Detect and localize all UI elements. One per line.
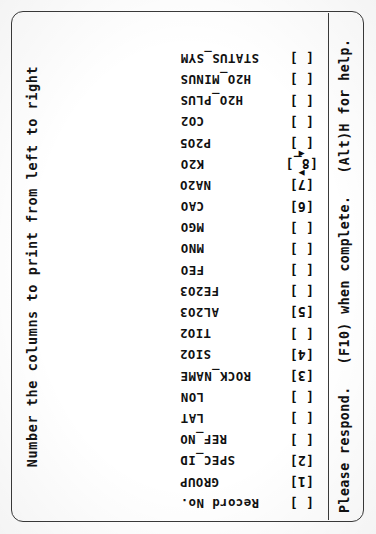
column-order-row[interactable]: FEO[ ]	[180, 259, 319, 280]
status-help-hint: (Alt)H for help.	[337, 39, 352, 174]
column-label: REF_NO	[180, 433, 284, 446]
column-order-row[interactable]: H2O_PLUS[ ]	[180, 89, 319, 110]
column-order-input[interactable]: [ ]	[285, 284, 319, 297]
column-order-input[interactable]: [ ]	[285, 496, 319, 509]
column-order-row[interactable]: CO2[ ]	[180, 110, 319, 131]
column-order-input[interactable]: [ ]	[285, 241, 319, 254]
column-order-row[interactable]: LON[ ]	[180, 386, 319, 407]
column-label: H2O_PLUS	[180, 94, 284, 107]
column-label: Record No.	[180, 496, 284, 509]
column-label: TIO2	[180, 327, 284, 340]
column-order-input[interactable]: [8_]▲▼	[285, 157, 319, 170]
column-order-row[interactable]: CAO[6]	[180, 195, 319, 216]
column-order-input[interactable]: [ ]	[285, 93, 319, 106]
column-label: K2O	[180, 157, 284, 170]
column-order-input[interactable]: [ ]	[285, 51, 319, 64]
column-order-row[interactable]: H2O_MINUS[ ]	[180, 68, 319, 89]
column-order-input[interactable]: [4]	[285, 347, 319, 360]
column-order-input[interactable]: [2]	[285, 453, 319, 466]
column-label: FEO	[180, 263, 284, 276]
column-order-row[interactable]: MGO[ ]	[180, 216, 319, 237]
column-order-input[interactable]: [3]	[285, 369, 319, 382]
column-label: AL2O3	[180, 305, 284, 318]
column-label: GROUP	[180, 475, 284, 488]
status-complete-hint: (F10) when complete.	[337, 196, 352, 365]
page-title: Number the columns to print from left to…	[24, 12, 40, 521]
column-order-input[interactable]: [ ]	[285, 390, 319, 403]
column-label: CO2	[180, 115, 284, 128]
status-bar: Please respond. (F10) when complete. (Al…	[333, 20, 355, 513]
column-order-row[interactable]: SPEC_ID[2]	[180, 449, 319, 470]
column-label: SPEC_ID	[180, 454, 284, 467]
column-order-input[interactable]: [6]	[285, 199, 319, 212]
column-order-input[interactable]: [7]	[285, 178, 319, 191]
column-order-row[interactable]: NA2O[7]	[180, 174, 319, 195]
column-order-input[interactable]: [ ]	[285, 72, 319, 85]
column-order-input[interactable]: [ ]	[285, 220, 319, 233]
column-label: MNO	[180, 242, 284, 255]
column-order-input[interactable]: [ ]	[285, 411, 319, 424]
column-order-input[interactable]: [ ]	[285, 136, 319, 149]
column-label: P2O5	[180, 136, 284, 149]
status-divider	[328, 13, 329, 520]
column-order-row[interactable]: LAT[ ]	[180, 407, 319, 428]
cursor-up-icon: ▲	[297, 151, 307, 157]
column-label: LON	[180, 390, 284, 403]
field-list: Record No.[ ]GROUP[1]SPEC_ID[2]REF_NO[ ]…	[180, 18, 319, 515]
column-order-input[interactable]: [1]	[285, 475, 319, 488]
column-label: H2O_MINUS	[180, 72, 284, 85]
cursor-down-icon: ▼	[297, 170, 307, 176]
column-label: CAO	[180, 199, 284, 212]
column-order-row[interactable]: REF_NO[ ]	[180, 428, 319, 449]
column-order-row[interactable]: K2O[8_]▲▼	[180, 153, 319, 174]
column-order-row[interactable]: MNO[ ]	[180, 238, 319, 259]
column-label: FE2O3	[180, 284, 284, 297]
column-label: SIO2	[180, 348, 284, 361]
status-prompt: Please respond.	[337, 386, 352, 513]
rotated-page: Number the columns to print from left to…	[0, 0, 376, 534]
column-order-row[interactable]: SIO2[4]	[180, 344, 319, 365]
column-order-row[interactable]: Record No.[ ]	[180, 492, 319, 513]
dialog-frame: Number the columns to print from left to…	[11, 11, 364, 522]
column-order-input[interactable]: [ ]	[285, 326, 319, 339]
column-order-input[interactable]: [ ]	[285, 432, 319, 445]
column-order-input[interactable]: [ ]	[285, 114, 319, 127]
column-label: LAT	[180, 411, 284, 424]
column-order-input[interactable]: [ ]	[285, 263, 319, 276]
column-label: ROCK_NAME	[180, 369, 284, 382]
column-order-row[interactable]: AL2O3[5]	[180, 301, 319, 322]
column-order-row[interactable]: STATUS_SYM[ ]	[180, 47, 319, 68]
column-label: MGO	[180, 221, 284, 234]
column-order-row[interactable]: FE2O3[ ]	[180, 280, 319, 301]
column-order-row[interactable]: ROCK_NAME[3]	[180, 365, 319, 386]
column-order-row[interactable]: GROUP[1]	[180, 471, 319, 492]
column-label: STATUS_SYM	[180, 51, 284, 64]
field-area: Record No.[ ]GROUP[1]SPEC_ID[2]REF_NO[ ]…	[48, 18, 321, 515]
column-label: NA2O	[180, 178, 284, 191]
column-order-row[interactable]: TIO2[ ]	[180, 322, 319, 343]
terminal-screen: Number the columns to print from left to…	[0, 0, 376, 534]
column-order-input[interactable]: [5]	[285, 305, 319, 318]
